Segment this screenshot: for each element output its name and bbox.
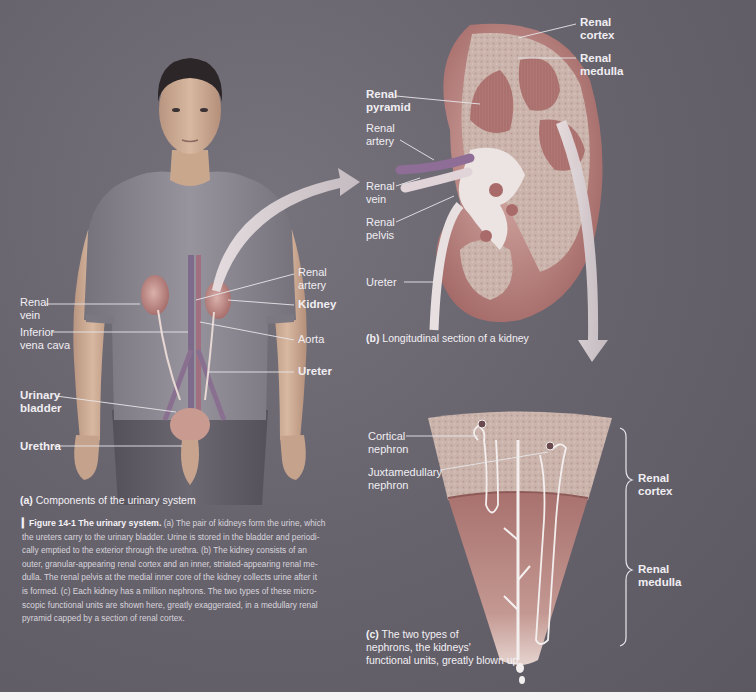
caption-c-line: (c) The two types of	[366, 628, 518, 641]
label-line: bladder	[20, 402, 62, 415]
label-a-ureter: Ureter	[298, 365, 332, 378]
label-line: Renal	[366, 88, 411, 101]
label-a-inferior-vena-cava: Inferior vena cava	[20, 326, 70, 352]
label-line: vein	[20, 309, 49, 322]
legend-line: pyramid capped by a section of renal cor…	[22, 613, 185, 623]
label-c-cortical-nephron: Cortical nephron	[368, 430, 408, 456]
label-b-renal-pyramid: Renal pyramid	[366, 88, 411, 114]
label-line: vena cava	[20, 339, 70, 352]
label-line: cortex	[580, 29, 615, 42]
label-a-renal-vein: Renal vein	[20, 296, 49, 322]
label-line: Cortical	[368, 430, 408, 443]
legend-line: scopic functional units are shown here, …	[22, 600, 318, 610]
figure-legend: ▎Figure 14-1 The urinary system. (a) The…	[22, 517, 374, 626]
caption-b: (b) Longitudinal section of a kidney	[366, 332, 529, 345]
label-b-renal-cortex: Renal cortex	[580, 16, 615, 42]
label-line: Renal	[580, 52, 623, 65]
label-line: Renal	[366, 122, 395, 135]
label-line: nephron	[368, 443, 408, 456]
label-line: Renal	[366, 216, 395, 229]
label-line: pelvis	[366, 229, 395, 242]
legend-line: outer, granular-appearing renal cortex a…	[22, 559, 318, 569]
label-line: Renal	[580, 16, 615, 29]
label-b-renal-vein: Renal vein	[366, 180, 395, 206]
label-a-renal-artery: Renal artery	[298, 266, 327, 292]
label-line: Renal	[638, 563, 681, 576]
caption-c-line: nephrons, the kidneys'	[366, 641, 518, 654]
label-line: nephron	[368, 479, 442, 492]
figure-number-text: Figure 14-1	[29, 518, 76, 528]
caption-b-text: Longitudinal section of a kidney	[382, 332, 529, 344]
label-line: medulla	[580, 65, 623, 78]
label-line: Inferior	[20, 326, 70, 339]
label-line: Renal	[20, 296, 49, 309]
left-kidney	[141, 275, 169, 315]
label-a-urinary-bladder: Urinary bladder	[20, 389, 62, 415]
label-line: vein	[366, 193, 395, 206]
label-c-renal-medulla: Renal medulla	[638, 563, 681, 589]
label-line: cortex	[638, 485, 673, 498]
figure-title: The urinary system.	[78, 518, 161, 528]
caption-a-letter: (a)	[20, 494, 33, 506]
label-line: Renal	[366, 180, 395, 193]
label-b-renal-pelvis: Renal pelvis	[366, 216, 395, 242]
label-line: Renal	[638, 472, 673, 485]
label-a-aorta: Aorta	[298, 333, 324, 346]
caption-c: (c) The two types of nephrons, the kidne…	[366, 628, 518, 667]
label-a-kidney: Kidney	[298, 298, 336, 311]
label-a-urethra: Urethra	[20, 440, 61, 453]
caption-c-letter: (c)	[366, 628, 379, 640]
legend-line: (a) The pair of kidneys form the urine, …	[164, 518, 326, 528]
label-b-renal-medulla: Renal medulla	[580, 52, 623, 78]
label-line: Renal	[298, 266, 327, 279]
label-line: artery	[366, 135, 395, 148]
label-line: medulla	[638, 576, 681, 589]
caption-a: (a) Components of the urinary system	[20, 494, 196, 507]
page-bottom-margin	[0, 692, 756, 700]
legend-line: the ureters carry to the urinary bladder…	[22, 532, 319, 542]
legend-line: cally emptied to the exterior through th…	[22, 545, 307, 555]
legend-line: is formed. (c) Each kidney has a million…	[22, 586, 317, 596]
caption-a-text: Components of the urinary system	[36, 494, 196, 506]
label-b-renal-artery: Renal artery	[366, 122, 395, 148]
label-line: artery	[298, 279, 327, 292]
label-line: Juxtamedullary	[368, 466, 442, 479]
cortex-medulla-braces	[620, 428, 632, 646]
caption-c-line: functional units, greatly blown up	[366, 654, 518, 667]
label-b-ureter: Ureter	[366, 276, 397, 289]
label-line: pyramid	[366, 101, 411, 114]
label-c-renal-cortex: Renal cortex	[638, 472, 673, 498]
figure-number: ▎Figure 14-1	[22, 518, 76, 528]
caption-b-letter: (b)	[366, 332, 379, 344]
label-c-juxtamedullary-nephron: Juxtamedullary nephron	[368, 466, 442, 492]
legend-line: dulla. The renal pelvis at the medial in…	[22, 572, 317, 582]
kidney-section	[400, 24, 603, 330]
label-line: Urinary	[20, 389, 62, 402]
human-figure	[73, 58, 306, 505]
caption-c-text: The two types of	[382, 628, 459, 640]
